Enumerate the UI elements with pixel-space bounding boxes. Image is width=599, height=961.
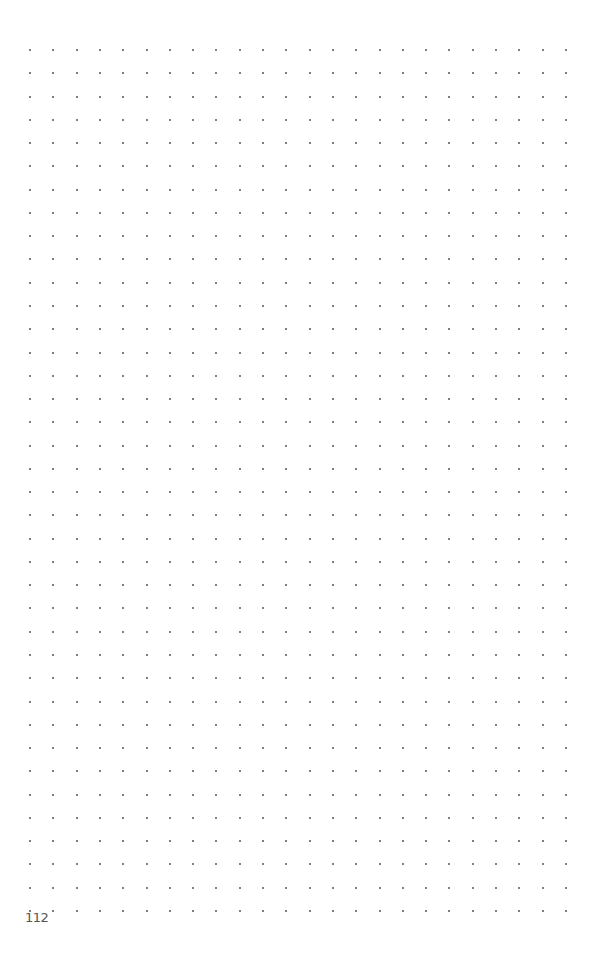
- grid-dot: [332, 887, 334, 889]
- grid-dot: [495, 96, 497, 98]
- grid-dot: [425, 770, 427, 772]
- grid-dot: [29, 747, 31, 749]
- grid-dot: [402, 305, 404, 307]
- grid-dot: [518, 282, 520, 284]
- grid-dot: [472, 701, 474, 703]
- grid-dot: [215, 491, 217, 493]
- grid-dot: [425, 491, 427, 493]
- grid-dot: [565, 72, 567, 74]
- grid-dot: [192, 189, 194, 191]
- grid-dot: [99, 49, 101, 51]
- grid-dot: [518, 770, 520, 772]
- grid-dot: [379, 584, 381, 586]
- grid-dot: [215, 375, 217, 377]
- grid-dot: [332, 794, 334, 796]
- grid-dot: [425, 794, 427, 796]
- grid-dot: [239, 96, 241, 98]
- grid-dot: [215, 165, 217, 167]
- grid-dot: [402, 863, 404, 865]
- grid-dot: [425, 840, 427, 842]
- grid-dot: [518, 421, 520, 423]
- grid-dot: [169, 887, 171, 889]
- grid-dot: [448, 654, 450, 656]
- grid-dot: [332, 584, 334, 586]
- grid-dot: [192, 561, 194, 563]
- grid-dot: [192, 282, 194, 284]
- grid-dot: [146, 282, 148, 284]
- grid-dot: [262, 724, 264, 726]
- grid-dot: [355, 701, 357, 703]
- grid-dot: [52, 491, 54, 493]
- grid-dot: [518, 189, 520, 191]
- grid-dot: [402, 212, 404, 214]
- grid-dot: [215, 561, 217, 563]
- grid-dot: [355, 770, 357, 772]
- grid-dot: [332, 235, 334, 237]
- grid-dot: [448, 863, 450, 865]
- grid-dot: [76, 887, 78, 889]
- grid-dot: [122, 724, 124, 726]
- grid-dot: [169, 352, 171, 354]
- grid-dot: [215, 282, 217, 284]
- grid-dot: [122, 165, 124, 167]
- grid-dot: [99, 445, 101, 447]
- grid-dot: [425, 468, 427, 470]
- grid-dot: [518, 119, 520, 121]
- grid-dot: [192, 142, 194, 144]
- grid-dot: [379, 375, 381, 377]
- grid-dot: [448, 817, 450, 819]
- grid-dot: [355, 840, 357, 842]
- grid-dot: [29, 49, 31, 51]
- grid-dot: [285, 840, 287, 842]
- grid-dot: [215, 142, 217, 144]
- grid-dot: [355, 677, 357, 679]
- grid-dot: [495, 887, 497, 889]
- grid-dot: [448, 165, 450, 167]
- grid-dot: [448, 561, 450, 563]
- grid-dot: [239, 491, 241, 493]
- grid-dot: [239, 514, 241, 516]
- grid-dot: [542, 72, 544, 74]
- grid-dot: [122, 654, 124, 656]
- grid-dot: [309, 677, 311, 679]
- grid-dot: [239, 305, 241, 307]
- grid-dot: [448, 258, 450, 260]
- grid-dot: [285, 701, 287, 703]
- grid-dot: [542, 794, 544, 796]
- grid-dot: [215, 794, 217, 796]
- grid-dot: [285, 724, 287, 726]
- grid-dot: [146, 840, 148, 842]
- grid-dot: [542, 631, 544, 633]
- grid-dot: [542, 165, 544, 167]
- grid-dot: [448, 701, 450, 703]
- grid-dot: [355, 491, 357, 493]
- grid-dot: [76, 677, 78, 679]
- grid-dot: [495, 770, 497, 772]
- grid-dot: [495, 538, 497, 540]
- grid-dot: [495, 282, 497, 284]
- grid-dot: [122, 72, 124, 74]
- grid-dot: [425, 817, 427, 819]
- grid-dot: [355, 119, 357, 121]
- grid-dot: [472, 421, 474, 423]
- grid-dot: [448, 631, 450, 633]
- grid-dot: [472, 817, 474, 819]
- grid-dot: [379, 863, 381, 865]
- grid-dot: [239, 421, 241, 423]
- grid-dot: [425, 724, 427, 726]
- grid-dot: [472, 375, 474, 377]
- grid-dot: [542, 561, 544, 563]
- grid-dot: [239, 189, 241, 191]
- grid-dot: [29, 142, 31, 144]
- grid-dot: [169, 701, 171, 703]
- grid-dot: [472, 677, 474, 679]
- grid-dot: [99, 491, 101, 493]
- grid-dot: [285, 421, 287, 423]
- grid-dot: [542, 887, 544, 889]
- grid-dot: [29, 561, 31, 563]
- grid-dot: [239, 165, 241, 167]
- grid-dot: [52, 863, 54, 865]
- grid-dot: [29, 72, 31, 74]
- grid-dot: [99, 538, 101, 540]
- grid-dot: [99, 840, 101, 842]
